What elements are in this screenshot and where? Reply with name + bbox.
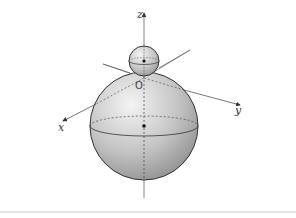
y-axis-label: y <box>234 104 242 117</box>
y-axis-upper <box>103 64 130 73</box>
x-axis-label: x <box>58 121 65 134</box>
x-axis-upper <box>159 50 190 68</box>
large-center-dot <box>142 124 146 128</box>
small-center-dot <box>142 59 145 62</box>
origin-label: O <box>135 80 143 91</box>
z-axis-label: z <box>136 8 143 21</box>
sphere-diagram: z x y O <box>0 0 296 218</box>
small-sphere <box>129 46 159 76</box>
large-sphere <box>90 72 198 180</box>
